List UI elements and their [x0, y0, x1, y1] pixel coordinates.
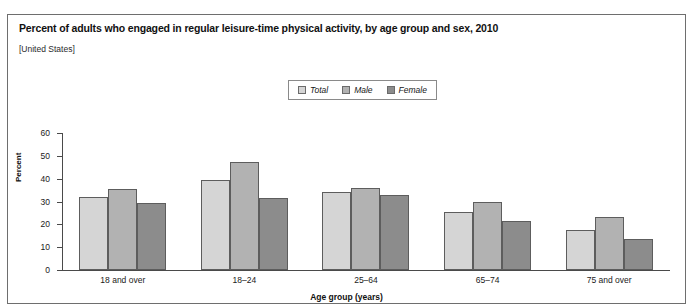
legend-swatch-icon — [342, 86, 350, 94]
x-axis-tick-label: 18 and over — [62, 275, 184, 285]
bar — [79, 197, 108, 270]
bar — [201, 180, 230, 270]
legend-item: Female — [387, 85, 427, 95]
legend-label: Total — [310, 85, 328, 95]
bar — [380, 195, 409, 270]
legend-label: Female — [399, 85, 427, 95]
bar — [259, 198, 288, 270]
bar — [230, 162, 259, 270]
y-axis-tick-label: 10 — [6, 242, 50, 252]
x-axis-tick-label: 25–64 — [305, 275, 427, 285]
y-axis-tick-label: 0 — [6, 265, 50, 275]
bar — [322, 192, 351, 270]
bar-group — [427, 133, 549, 270]
bar — [108, 189, 137, 270]
bar — [444, 212, 473, 270]
bar — [502, 221, 531, 270]
legend-item: Total — [298, 85, 328, 95]
legend-swatch-icon — [387, 86, 395, 94]
bar — [473, 202, 502, 271]
chart-legend: TotalMaleFemale — [288, 80, 437, 100]
y-axis-tick-label: 40 — [6, 174, 50, 184]
x-axis-line — [62, 270, 670, 271]
bar-group — [548, 133, 670, 270]
y-axis-tick-label: 20 — [6, 219, 50, 229]
x-axis-tick-label: 18–24 — [184, 275, 306, 285]
bar — [595, 217, 624, 270]
bar-group — [305, 133, 427, 270]
chart-figure: Percent of adults who engaged in regular… — [0, 0, 693, 308]
bar-group — [62, 133, 184, 270]
y-axis-tick-label: 50 — [6, 151, 50, 161]
figure-subtitle: [United States] — [19, 44, 75, 54]
x-axis-tick-label: 65–74 — [427, 275, 549, 285]
plot-area — [62, 133, 670, 270]
bar — [566, 230, 595, 270]
bar — [624, 239, 653, 270]
legend-swatch-icon — [298, 86, 306, 94]
y-axis-tick-label: 30 — [6, 197, 50, 207]
bar-group — [184, 133, 306, 270]
x-axis-tick-label: 75 and over — [548, 275, 670, 285]
bar — [137, 203, 166, 270]
x-axis-title: Age group (years) — [0, 292, 693, 302]
page-title: Percent of adults who engaged in regular… — [19, 22, 498, 34]
legend-label: Male — [354, 85, 372, 95]
legend-item: Male — [342, 85, 372, 95]
bar — [351, 188, 380, 270]
y-axis-tick-label: 60 — [6, 128, 50, 138]
